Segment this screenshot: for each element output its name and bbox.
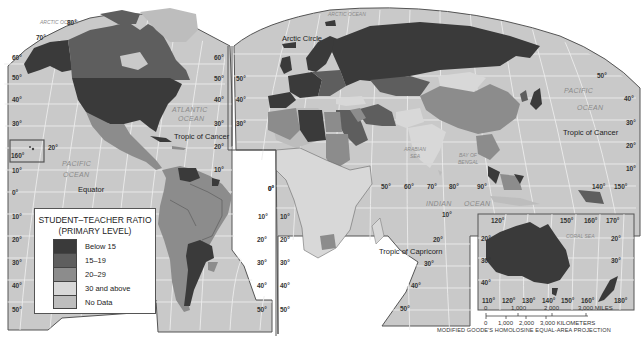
lat-label: 0° [12,190,18,197]
lat-label: 10° [12,168,22,175]
lat-label: 20° [257,237,267,244]
lon-label: 50° [381,184,391,191]
equator-label: Equator [78,186,104,194]
lat-label: 30° [626,120,636,127]
scale-miles-0: 0 [484,305,487,311]
lat-label: 20° [611,236,621,243]
projection-caption: MODIFIED GOODE'S HOMOLOSINE EQUAL-AREA P… [437,327,611,333]
lon-label: 170° [606,218,619,225]
lat-label: 70° [36,35,46,42]
lon-label: 160° [584,218,597,225]
lon-label: 60° [404,184,414,191]
lon-label: 140° [542,298,555,305]
lat-label: 40° [624,96,634,103]
map-legend: STUDENT–TEACHER RATIO (PRIMARY LEVEL) Be… [34,208,156,314]
legend-swatch [53,253,77,267]
tropic-of-cancer-label-left: Tropic of Cancer [174,133,229,141]
lon-label: 160° [581,298,594,305]
indian-ocean-label: INDIAN [426,200,452,207]
scale-miles-1000: 1,000 [511,305,526,311]
lon-label: 90° [477,184,487,191]
lat-label: 50° [597,73,607,80]
lon-label: 130° [522,298,535,305]
lon-label: 0° [268,186,274,193]
legend-item-20-29: 20–29 [53,267,130,281]
lon-label: 150° [561,298,574,305]
atlantic-ocean-label: ATLANTIC [172,106,208,113]
pacific-ocean-label-left: PACIFIC [62,160,91,167]
atlantic-ocean-label-2: OCEAN [178,115,204,122]
lat-label: 60° [214,55,224,62]
legend-label: Below 15 [85,242,116,251]
arabian-sea-label-2: SEA [410,154,420,159]
legend-item-15-19: 15–19 [53,253,130,267]
scale-miles-3000: 3,000 MILES [578,305,613,311]
legend-label: 30 and above [85,284,130,293]
scale-miles-2000: 2,000 [544,305,559,311]
lon-label: 150° [614,184,627,191]
legend-swatch [53,239,77,253]
lon-label: 160° [11,153,24,160]
lat-label: 30° [236,121,246,128]
lat-label: 50° [257,307,267,314]
lat-label: 40° [12,97,22,104]
indian-ocean-label-2: OCEAN [464,200,490,207]
legend-item-no-data: No Data [53,295,130,309]
lon-label: 110° [482,298,495,305]
pacific-ocean-label-right: PACIFIC [564,87,593,94]
lat-label: 30° [611,258,621,265]
bay-of-bengal-label-2: BENGAL [458,160,478,165]
lat-label: 30° [424,261,434,268]
lat-label: 50° [12,75,22,82]
legend-label: 15–19 [85,256,106,265]
lat-label: 50° [12,307,22,314]
lon-label: 180° [614,298,627,305]
tropic-of-capricorn-label: Tropic of Capricorn [379,248,443,256]
lon-label: 150° [560,218,573,225]
lat-label: 30° [12,260,22,267]
lon-label: 70° [427,184,437,191]
legend-title-line1: STUDENT–TEACHER RATIO [35,215,155,226]
lat-label: 10° [280,214,290,221]
scale-km-2000: 2,000 [519,320,534,326]
lon-label: 120° [502,298,515,305]
legend-swatch [53,267,77,281]
lat-label: 30° [12,121,22,128]
legend-label: 20–29 [85,270,106,279]
lat-label: 30° [280,260,290,267]
lat-label: 30° [481,258,491,265]
lat-label: 10° [442,212,452,219]
lat-label: 50° [400,306,410,313]
lat-label: 20° [12,237,22,244]
lat-label: 40° [257,283,267,290]
scale-km-0: 0 [484,320,487,326]
legend-item-below-15: Below 15 [53,239,130,253]
lat-label: 40° [481,280,491,287]
lat-label: 40° [236,97,246,104]
lat-label: 20° [626,143,636,150]
lat-label: 80° [67,20,77,27]
lon-label: 80° [449,184,459,191]
bay-of-bengal-label: BAY OF [459,153,477,158]
scale-km-1000: 1,000 [498,320,513,326]
lat-label: 50° [236,76,246,83]
arabian-sea-label: ARABIAN [404,147,426,152]
pacific-ocean-label-right-2: OCEAN [577,104,603,111]
lat-label: 20° [433,237,443,244]
arctic-ocean-label-right: ARCTIC OCEAN [328,12,366,17]
lat-label: 50° [214,76,224,83]
lat-label: 40° [214,97,224,104]
lon-label: 140° [592,184,605,191]
lat-label: 40° [12,283,22,290]
lat-label: 10° [12,214,22,221]
pacific-ocean-label-left-2: OCEAN [63,171,89,178]
lat-label: 20° [481,236,491,243]
lat-label: 20° [214,144,224,151]
scale-km-3000: 3,000 KILOMETERS [540,320,595,326]
lat-label: 40° [280,283,290,290]
tropic-of-cancer-label-right: Tropic of Cancer [563,129,618,137]
lat-label: 30° [257,260,267,267]
coral-sea-label: CORAL SEA [566,234,595,239]
lat-label: 20° [280,237,290,244]
lat-label: 30° [214,121,224,128]
